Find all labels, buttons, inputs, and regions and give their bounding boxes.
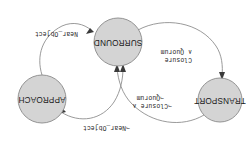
node-approach[interactable]: APPROACH — [18, 75, 66, 123]
edge-label-transport-to-surround: ¬Closure ∧ ¬Quorum — [133, 94, 172, 109]
edge-label-transport-to-surround-line1: ¬Closure ∧ — [133, 102, 172, 109]
rotated-figure-group: TRANSPORT APPROACH SURROUND Closure ∧ Qu… — [0, 0, 248, 142]
node-surround[interactable]: SURROUND — [94, 18, 143, 66]
arrowhead-into-surround-right — [86, 28, 94, 34]
state-transition-diagram: TRANSPORT APPROACH SURROUND Closure ∧ Qu… — [0, 0, 248, 142]
node-surround-label: SURROUND — [94, 38, 143, 47]
node-approach-label: APPROACH — [18, 95, 65, 104]
edge-label-approach-to-surround: ¬Near_Object — [83, 124, 130, 131]
edge-label-surround-to-transport-line2: ∧ Quorum — [160, 48, 192, 55]
edge-label-approach-to-surround-line1: ¬Near_Object — [83, 124, 130, 131]
edge-path-approach-to-surround — [61, 68, 123, 119]
node-transport-label: TRANSPORT — [194, 96, 246, 105]
edge-label-surround-to-approach-line1: Near_Object — [35, 30, 78, 37]
edge-label-surround-to-transport-line1: Closure — [164, 56, 192, 63]
edge-label-surround-to-transport: Closure ∧ Quorum — [160, 48, 192, 63]
edge-approach-to-surround — [61, 64, 126, 119]
edge-label-transport-to-surround-line2: ¬Quorum — [136, 94, 164, 101]
edge-label-surround-to-approach: Near_Object — [35, 30, 78, 37]
node-transport[interactable]: TRANSPORT — [194, 78, 246, 122]
diagram-canvas: TRANSPORT APPROACH SURROUND Closure ∧ Qu… — [0, 0, 248, 142]
